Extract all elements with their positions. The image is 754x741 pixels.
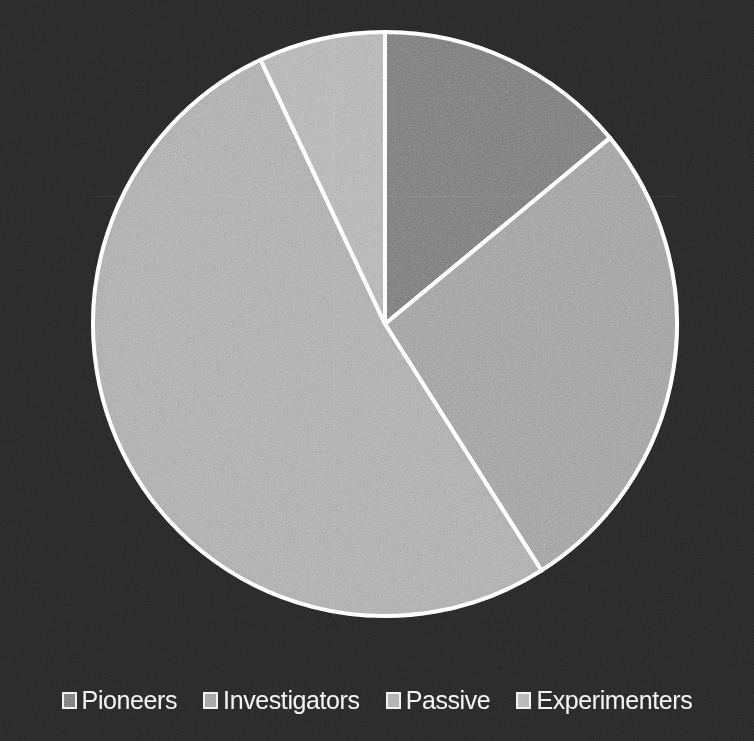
legend-label: Passive	[406, 688, 491, 713]
legend-label: Investigators	[223, 688, 360, 713]
pie-slice-group	[93, 32, 677, 616]
legend-item-investigators[interactable]: Investigators	[203, 688, 360, 713]
legend-item-pioneers[interactable]: Pioneers	[62, 688, 177, 713]
plot-area	[0, 0, 754, 660]
legend-swatch-icon	[386, 692, 401, 709]
legend-label: Experimenters	[536, 688, 692, 713]
legend-item-experimenters[interactable]: Experimenters	[516, 688, 692, 713]
legend-item-passive[interactable]: Passive	[386, 688, 491, 713]
legend-swatch-icon	[516, 692, 531, 709]
pie-chart	[0, 0, 754, 660]
chart-legend: PioneersInvestigatorsPassiveExperimenter…	[0, 660, 754, 741]
legend-label: Pioneers	[82, 688, 177, 713]
legend-swatch-icon	[62, 692, 77, 709]
pie-chart-page: PioneersInvestigatorsPassiveExperimenter…	[0, 0, 754, 741]
legend-swatch-icon	[203, 692, 218, 709]
